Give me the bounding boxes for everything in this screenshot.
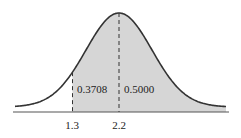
tick-label-1-3: 1.3 xyxy=(65,119,79,131)
area-label-right: 0.5000 xyxy=(124,83,155,95)
area-label-left: 0.3708 xyxy=(77,83,108,95)
normal-curve-chart: 0.3708 0.5000 1.3 2.2 xyxy=(0,0,241,138)
tick-label-2-2: 2.2 xyxy=(112,119,126,131)
shaded-area xyxy=(73,13,227,112)
